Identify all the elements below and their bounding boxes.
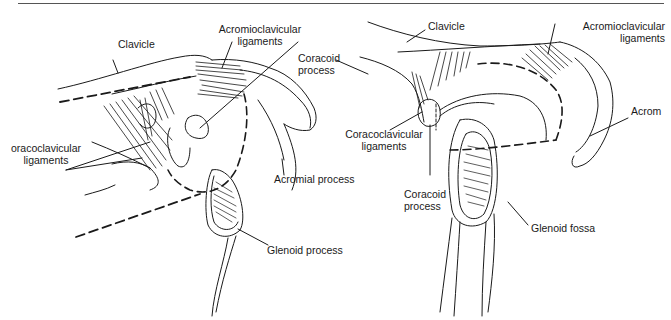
label-line: oracoclavicular bbox=[2, 142, 90, 154]
label-clavicle-left: Clavicle bbox=[118, 38, 155, 50]
label-clavicle-right: Clavicle bbox=[428, 20, 465, 32]
label-line: Coracoid bbox=[298, 52, 340, 64]
label-line: Coracoid bbox=[404, 188, 446, 200]
label-acromioclavicular-left: Acromioclavicular ligaments bbox=[212, 23, 308, 47]
label-line: Coracoclavicular bbox=[338, 128, 430, 140]
label-acromioclavicular-right: Acromioclavicular ligaments bbox=[553, 20, 665, 44]
label-line: ligaments bbox=[212, 35, 308, 47]
label-line: process bbox=[298, 64, 340, 76]
label-line: process bbox=[404, 200, 446, 212]
label-line: ligaments bbox=[2, 154, 90, 166]
anatomy-illustration bbox=[0, 0, 671, 320]
label-line: ligaments bbox=[553, 32, 665, 44]
label-coracoid-process-right: Coracoid process bbox=[404, 188, 446, 212]
label-line: ligaments bbox=[338, 140, 430, 152]
label-line: Acromioclavicular bbox=[553, 20, 665, 32]
label-coracoid-process-left: Coracoid process bbox=[298, 52, 340, 76]
label-glenoid-fossa: Glenoid fossa bbox=[531, 222, 595, 234]
right-scapula-drawing bbox=[336, 22, 628, 316]
label-line: Acromioclavicular bbox=[212, 23, 308, 35]
label-coracoclavicular-left: oracoclavicular ligaments bbox=[2, 142, 90, 166]
label-coracoclavicular-right: Coracoclavicular ligaments bbox=[338, 128, 430, 152]
label-acromial-process: Acromial process bbox=[274, 173, 355, 185]
label-acromion: Acrom bbox=[631, 105, 661, 117]
label-glenoid-process: Glenoid process bbox=[267, 244, 343, 256]
